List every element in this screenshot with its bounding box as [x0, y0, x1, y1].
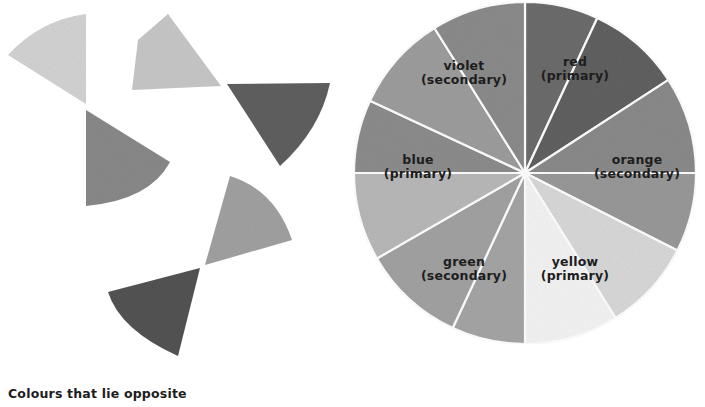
wedge-segment	[86, 110, 170, 206]
complementary-pairs	[8, 14, 330, 356]
wedge-segment	[132, 14, 221, 90]
colour-wheel-illustration: violet(secondary)red(primary)blue(primar…	[0, 0, 705, 407]
caption: Colours that lie opposite	[8, 386, 187, 401]
wedge-segment	[108, 268, 200, 356]
wedge-pair-2	[132, 14, 330, 166]
wedge-segment	[8, 14, 86, 104]
wedge-pair-3	[108, 176, 292, 356]
wedge-segment	[227, 83, 330, 166]
wedge-segment	[205, 176, 292, 265]
